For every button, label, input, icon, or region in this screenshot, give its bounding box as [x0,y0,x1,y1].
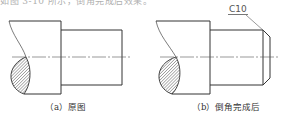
leader-line-c10 [246,15,264,31]
caption-figure-b: （b）倒角完成后 [192,100,260,112]
hatched-section-a [11,57,30,94]
break-line-a [9,21,26,57]
figure-b-drawing [156,15,278,94]
figure-a-drawing [9,21,130,94]
hatched-section-b [159,57,180,94]
shaft-a [61,30,122,85]
chamfered-shaft-b [210,30,270,85]
caption-figure-a: （a）原图 [45,100,86,112]
chamfer-label-c10: C10 [228,5,248,15]
break-line-b [156,21,176,57]
